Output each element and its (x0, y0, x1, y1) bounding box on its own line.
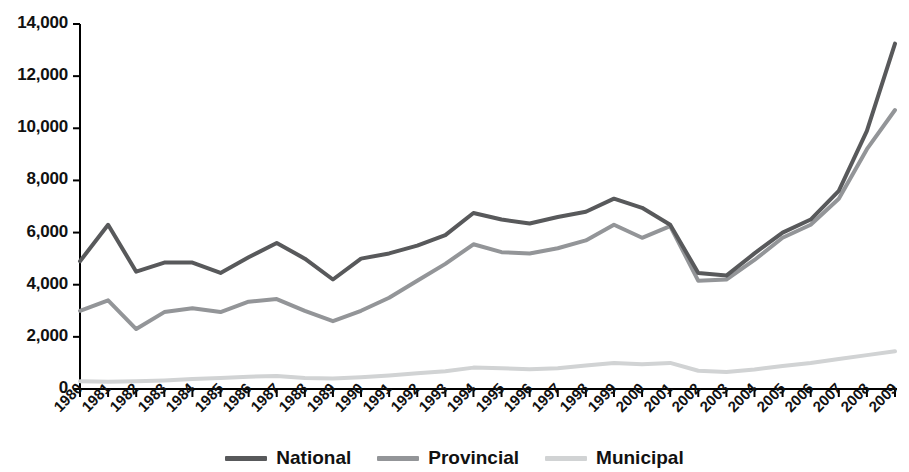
legend-item-provincial[interactable]: Provincial (377, 447, 519, 469)
legend-label: Provincial (428, 447, 519, 469)
legend-swatch-icon (545, 456, 587, 461)
line-chart: 02,0004,0006,0008,00010,00012,00014,000 … (0, 0, 909, 472)
legend-label: Municipal (596, 447, 684, 469)
y-axis-tick-label: 14,000 (17, 13, 68, 33)
chart-legend: NationalProvincialMunicipal (0, 444, 909, 472)
legend-label: National (276, 447, 351, 469)
legend-swatch-icon (377, 456, 419, 461)
y-axis-tick-label: 12,000 (17, 65, 68, 85)
series-line-municipal (80, 351, 895, 382)
legend-item-national[interactable]: National (225, 447, 351, 469)
y-axis-ticks (73, 24, 80, 389)
series-line-provincial (80, 110, 895, 329)
y-axis-tick-label: 4,000 (26, 274, 68, 294)
y-axis-tick-label: 10,000 (17, 117, 68, 137)
y-axis-tick-label: 8,000 (26, 169, 68, 189)
chart-axes (80, 24, 897, 389)
y-axis-tick-label: 2,000 (26, 326, 68, 346)
legend-swatch-icon (225, 456, 267, 461)
legend-item-municipal[interactable]: Municipal (545, 447, 684, 469)
y-axis-tick-label: 6,000 (26, 222, 68, 242)
